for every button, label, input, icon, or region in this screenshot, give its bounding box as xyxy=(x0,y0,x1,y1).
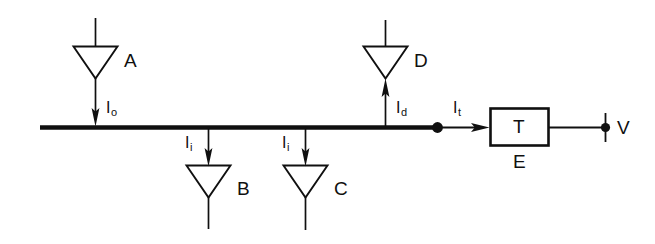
device-b-group xyxy=(187,129,231,229)
device-b-triangle-icon xyxy=(187,166,231,198)
device-a-triangle-icon xyxy=(74,47,118,79)
current-id-subscript: d xyxy=(401,106,407,118)
current-it-subscript: t xyxy=(458,106,461,118)
current-io-symbol: I xyxy=(106,99,110,116)
current-id-label: Id xyxy=(396,100,407,116)
device-d-triangle-icon xyxy=(364,47,408,79)
current-it-label: It xyxy=(453,100,461,116)
current-io-subscript: o xyxy=(111,106,117,118)
device-b-label: B xyxy=(237,179,250,198)
diagram-canvas xyxy=(0,0,655,244)
current-ii-b-label: Ii xyxy=(185,135,192,151)
device-d-label: D xyxy=(414,51,428,70)
output-terminal-group xyxy=(549,113,611,142)
block-t-label: T xyxy=(513,117,525,136)
terminal-v-label: V xyxy=(617,118,630,137)
current-ii-c-label: Ii xyxy=(282,135,289,151)
circuit-diagram: A B C D Io Ii Ii Id It T E V xyxy=(0,0,655,244)
block-e-label: E xyxy=(513,152,526,171)
current-io-label: Io xyxy=(106,100,117,116)
device-a-label: A xyxy=(124,51,137,70)
current-it-symbol: I xyxy=(453,99,457,116)
current-id-symbol: I xyxy=(396,99,400,116)
current-ii-c-symbol: I xyxy=(282,134,286,151)
terminal-node-dot xyxy=(601,123,610,132)
device-c-triangle-icon xyxy=(284,166,328,198)
current-ii-b-symbol: I xyxy=(185,134,189,151)
transfer-current-path xyxy=(440,123,490,132)
device-c-group xyxy=(284,129,328,230)
device-c-label: C xyxy=(334,179,348,198)
